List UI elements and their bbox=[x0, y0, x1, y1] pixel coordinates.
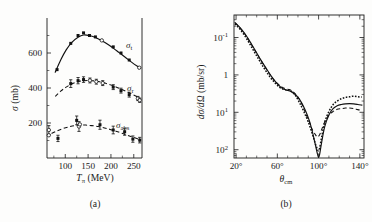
panel-a-point-filled bbox=[98, 123, 101, 126]
panel-b-y-axis-title: dσ/dΩ(mb/sr) bbox=[195, 65, 207, 120]
panel-a-plot: 200400600100150200250 σt σr σabs σ(mb) T… bbox=[0, 0, 186, 222]
panel-a-point-filled bbox=[112, 129, 115, 132]
panel-a-cross-sections: 200400600100150200250 σt σr σabs σ(mb) T… bbox=[0, 0, 186, 222]
panel-a-x-axis-title: Tπ(MeV) bbox=[76, 172, 113, 184]
panel-a-point-open bbox=[88, 79, 91, 82]
panel-b-angular-distribution: 102101110-120°60°100°140° dσ/dΩ(mb/sr) θ… bbox=[186, 0, 372, 222]
panel-a-point-open bbox=[47, 134, 50, 137]
panel-a-point-open bbox=[100, 39, 103, 42]
panel-b-x-tick-label: 20° bbox=[230, 161, 243, 171]
panel-a-x-tick-label: 150 bbox=[81, 161, 95, 171]
panel-a-point-filled bbox=[56, 68, 59, 71]
panel-a-caption: (a) bbox=[90, 198, 101, 210]
panel-a-point-filled bbox=[94, 35, 97, 38]
panel-a-point-filled bbox=[82, 78, 85, 81]
panel-b-y-tick-label: 101 bbox=[216, 106, 228, 117]
panel-a-point-filled bbox=[112, 45, 115, 48]
figure-root: 200400600100150200250 σt σr σabs σ(mb) T… bbox=[0, 0, 372, 222]
panel-b-caption: (b) bbox=[280, 198, 291, 210]
panel-b-curve-data bbox=[235, 24, 362, 151]
panel-a-point-open bbox=[78, 123, 81, 126]
panel-a-point-filled bbox=[77, 79, 80, 82]
panel-a-point-filled bbox=[69, 82, 72, 85]
panel-b-x-axis-title: θcm bbox=[280, 173, 294, 185]
series-label-sigma-t: σt bbox=[126, 40, 132, 51]
panel-a-point-open bbox=[138, 99, 141, 102]
panel-b-y-tick-label: 10-1 bbox=[213, 31, 228, 42]
panel-a-point-filled bbox=[128, 59, 131, 62]
panel-a-point-filled bbox=[56, 137, 59, 140]
panel-b-frame bbox=[234, 15, 364, 158]
panel-a-point-filled bbox=[119, 52, 122, 55]
series-label-sigma-abs: σabs bbox=[116, 120, 130, 131]
panel-b-x-tick-label: 60° bbox=[271, 161, 284, 171]
panel-b-y-tick-label: 102 bbox=[216, 144, 228, 155]
panel-a-point-open bbox=[101, 81, 104, 84]
panel-a-point-filled bbox=[131, 138, 134, 141]
series-label-sigma-r: σr bbox=[127, 83, 134, 94]
panel-b-x-tick-label: 140° bbox=[351, 161, 369, 171]
panel-b-x-tick-label: 100° bbox=[310, 161, 328, 171]
panel-b-y-tick-label: 1 bbox=[223, 70, 228, 80]
panel-a-y-tick-label: 200 bbox=[28, 118, 42, 128]
panel-b-curve-calc-dashed bbox=[235, 23, 362, 137]
panel-a-point-filled bbox=[119, 89, 122, 92]
panel-a-x-tick-label: 250 bbox=[127, 161, 141, 171]
panel-b-plot: 102101110-120°60°100°140° dσ/dΩ(mb/sr) θ… bbox=[186, 0, 372, 222]
panel-b-axes bbox=[234, 15, 364, 158]
panel-a-point-filled bbox=[138, 139, 141, 142]
panel-a-y-tick-label: 400 bbox=[28, 83, 42, 93]
panel-a-point-open bbox=[138, 66, 141, 69]
panel-b-curves bbox=[235, 23, 362, 158]
panel-a-tick-labels: 200400600100150200250 bbox=[28, 48, 141, 171]
panel-a-point-filled bbox=[82, 31, 85, 34]
panel-a-x-tick-label: 100 bbox=[58, 161, 72, 171]
panel-a-point-filled bbox=[69, 42, 72, 45]
panel-a-point-filled bbox=[112, 86, 115, 89]
panel-a-point-filled bbox=[88, 34, 91, 37]
panel-a-point-open bbox=[95, 80, 98, 83]
panel-a-y-tick-label: 600 bbox=[28, 48, 42, 58]
panel-a-point-open bbox=[47, 128, 50, 131]
panel-a-point-filled bbox=[77, 34, 80, 37]
panel-a-point-filled bbox=[128, 93, 131, 96]
panel-a-x-tick-label: 200 bbox=[104, 161, 118, 171]
panel-b-curve-calc-solid bbox=[235, 23, 362, 158]
panel-a-y-axis-title: σ(mb) bbox=[9, 85, 21, 111]
